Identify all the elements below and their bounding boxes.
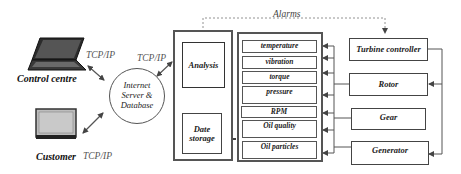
sensor-label: Oil particles — [261, 143, 299, 151]
sensor-label: Oil quality — [263, 122, 296, 130]
tcp-ip-label-system: TCP/IP — [137, 53, 166, 63]
sensor-rpm: RPM — [241, 106, 317, 118]
server-label-line-3: Database — [121, 101, 154, 111]
analysis-box: Analysis — [182, 42, 225, 88]
alarms-label: Alarms — [273, 9, 300, 19]
internet-server-database-node: Internet Server & Database — [109, 68, 165, 124]
sensor-label: torque — [269, 73, 289, 81]
component-label: Gear — [380, 113, 397, 122]
laptop-icon — [26, 36, 88, 74]
monitor-icon — [35, 108, 77, 140]
sensor-label: RPM — [271, 108, 287, 116]
analysis-label: Analysis — [189, 61, 219, 70]
generator-box: Generator — [351, 141, 429, 165]
sensor-oil-quality: Oil quality — [242, 120, 317, 138]
sensor-temperature: temperature — [242, 40, 317, 53]
sensor-label: pressure — [266, 88, 292, 96]
component-label: Turbine controller — [356, 45, 421, 54]
sensor-torque: torque — [242, 71, 317, 84]
customer-label: Customer — [36, 151, 76, 162]
component-label: Rotor — [379, 80, 399, 89]
control-centre-label: Control centre — [17, 73, 77, 84]
sensor-label: temperature — [261, 42, 299, 50]
wind-turbine-monitoring-diagram: Control centre TCP/IP Customer TCP/IP In… — [0, 0, 461, 174]
turbine-controller-box: Turbine controller — [349, 38, 428, 61]
tcp-ip-label-control: TCP/IP — [86, 50, 115, 60]
data-storage-label-line-2: storage — [189, 134, 215, 143]
data-storage-box: Date storage — [182, 113, 222, 154]
sensor-pressure: pressure — [242, 86, 317, 104]
gear-box: Gear — [351, 108, 426, 130]
component-label: Generator — [372, 146, 408, 155]
tcp-ip-label-customer: TCP/IP — [83, 151, 112, 161]
sensor-label: vibration — [266, 58, 294, 66]
rotor-box: Rotor — [349, 73, 428, 96]
sensor-oil-particles: Oil particles — [242, 141, 317, 159]
sensor-vibration: vibration — [242, 56, 317, 69]
